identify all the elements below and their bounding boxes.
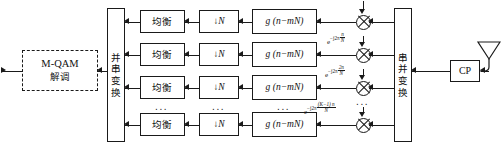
row2-dn-to-eq-arrow <box>184 51 189 57</box>
s2p-char-2: 变 <box>398 75 408 87</box>
p2s-char-2: 变 <box>111 75 121 87</box>
row4-equalizer-label: 均衡 <box>152 120 173 130</box>
row4-exp-den: N <box>324 107 327 113</box>
cp-to-s2p-arrow <box>411 67 416 73</box>
row3-mixer-to-g-line <box>317 88 356 89</box>
row4-downsample-factor: N <box>218 120 224 130</box>
row3-g-to-dn-arrow <box>238 84 243 90</box>
row1-s2p-to-mixer-arrow <box>368 18 373 24</box>
row2-mixer-to-g-arrow <box>316 51 321 57</box>
row2-exp-sup-prefix: −j2π <box>330 35 340 41</box>
downsampler-column-ellipsis: ... <box>212 101 225 112</box>
row1-filter-label: g (n−mN) <box>266 17 304 27</box>
row3-downsampler-block[interactable]: ↓N <box>199 76 239 99</box>
equalizer-column-ellipsis: ... <box>155 101 168 112</box>
p2s-char-0: 并 <box>111 52 121 64</box>
row3-equalizer-label: 均衡 <box>152 83 173 93</box>
row4-exp-num: (K−1) n <box>318 101 335 107</box>
row4-eq-to-p2s-arrow <box>124 121 129 127</box>
row3-matched-filter-block[interactable]: g (n−mN) <box>252 75 317 100</box>
row2-downsampler-block[interactable]: ↓N <box>199 43 239 66</box>
row2-eq-to-p2s-arrow <box>124 51 129 57</box>
mqam-demod-label-line1: M-QAM <box>41 58 78 71</box>
s2p-char-1: 并 <box>398 63 408 75</box>
row2-equalizer-block[interactable]: 均衡 <box>140 43 185 66</box>
mqam-demodulator-block[interactable]: M-QAM 解调 <box>22 50 98 91</box>
row4-s2p-to-mixer-arrow <box>368 121 373 127</box>
row3-filter-label: g (n−mN) <box>266 83 304 93</box>
row4-filter-label: g (n−mN) <box>266 120 304 130</box>
row1-matched-filter-block[interactable]: g (n−mN) <box>252 9 317 34</box>
row3-exp-sup-prefix: −j2π <box>328 68 338 74</box>
row3-equalizer-block[interactable]: 均衡 <box>140 76 185 99</box>
s2p-char-0: 串 <box>398 52 408 64</box>
row3-exp-num: 2n <box>339 64 344 70</box>
row1-eq-to-p2s-arrow <box>124 18 129 24</box>
row2-downsample-factor: N <box>218 50 224 60</box>
row4-carrier-arrow <box>359 112 365 117</box>
demod-output-arrow <box>1 67 6 73</box>
row2-carrier-exponent-label: e−j2πnN <box>327 32 345 46</box>
row2-mixer-to-g-line <box>317 55 356 56</box>
mqam-demod-label-line2: 解调 <box>50 71 70 83</box>
row4-carrier-exponent-label: e−j2π(K−1) nN <box>304 102 336 116</box>
row3-carrier-exponent-label: e−j2π2nN <box>325 65 345 79</box>
row4-exp-sup-prefix: −j2π <box>307 105 317 111</box>
row4-matched-filter-block[interactable]: g (n−mN) <box>252 112 317 137</box>
row4-downsampler-block[interactable]: ↓N <box>199 113 239 136</box>
row1-carrier-arrow <box>359 9 365 14</box>
row4-mixer-to-g-arrow <box>316 121 321 127</box>
row3-carrier-arrow <box>359 75 365 80</box>
row1-mixer-to-g-line <box>317 22 356 23</box>
row2-filter-label: g (n−mN) <box>266 50 304 60</box>
mixer-column-ellipsis: ... <box>356 96 369 107</box>
row1-dn-to-eq-arrow <box>184 18 189 24</box>
row1-downsample-factor: N <box>218 17 224 27</box>
p2s-to-demod-arrow <box>97 67 102 73</box>
row2-exp-num: n <box>341 31 344 37</box>
row3-mixer-to-g-arrow <box>316 84 321 90</box>
row1-equalizer-label: 均衡 <box>152 17 173 27</box>
row4-g-to-dn-arrow <box>238 121 243 127</box>
parallel-to-serial-block[interactable]: 并 串 变 换 <box>107 8 125 142</box>
row3-s2p-to-mixer-arrow <box>368 84 373 90</box>
diagram-canvas: M-QAM 解调 并 串 变 换 均衡 ↓N g (n−mN) 均衡 ↓N <box>0 0 501 150</box>
row1-mixer-to-g-arrow <box>316 18 321 24</box>
row1-g-to-dn-arrow <box>238 18 243 24</box>
row2-s2p-to-mixer-arrow <box>368 51 373 57</box>
filter-column-ellipsis: ... <box>277 101 290 112</box>
row3-downsample-factor: N <box>218 83 224 93</box>
antenna-icon <box>468 40 501 74</box>
row2-carrier-arrow <box>359 42 365 47</box>
row4-mixer-to-g-line <box>317 125 356 126</box>
row3-eq-to-p2s-arrow <box>124 84 129 90</box>
serial-to-parallel-block[interactable]: 串 并 变 换 <box>394 8 412 142</box>
cp-to-s2p-line <box>412 71 450 72</box>
s2p-char-3: 换 <box>398 87 408 99</box>
row3-exp-den: N <box>340 70 343 76</box>
p2s-char-1: 串 <box>111 63 121 75</box>
row2-equalizer-label: 均衡 <box>152 50 173 60</box>
row4-dn-to-eq-arrow <box>184 121 189 127</box>
row2-exp-den: N <box>341 37 344 43</box>
row3-dn-to-eq-arrow <box>184 84 189 90</box>
p2s-char-3: 换 <box>111 87 121 99</box>
row2-g-to-dn-arrow <box>238 51 243 57</box>
row4-equalizer-block[interactable]: 均衡 <box>140 113 185 136</box>
row1-equalizer-block[interactable]: 均衡 <box>140 10 185 33</box>
row2-matched-filter-block[interactable]: g (n−mN) <box>252 42 317 67</box>
row1-downsampler-block[interactable]: ↓N <box>199 10 239 33</box>
